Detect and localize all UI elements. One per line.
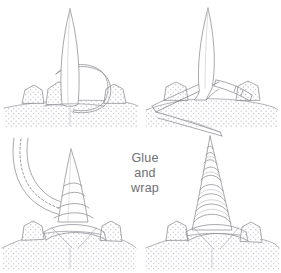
diagram-canvas: Glue and wrap bbox=[0, 0, 281, 273]
ground-stipple bbox=[146, 99, 278, 128]
glue-and-wrap-label: Glue and wrap bbox=[130, 151, 159, 195]
rock-left bbox=[22, 85, 44, 103]
annotation-line-1: Glue bbox=[131, 151, 158, 165]
rock-left bbox=[166, 221, 188, 240]
horn-blade bbox=[61, 9, 79, 106]
panel-2-top-right bbox=[146, 8, 278, 136]
rock-right bbox=[100, 221, 122, 241]
panel-4-bottom-right bbox=[146, 136, 279, 271]
curved-strip bbox=[13, 138, 68, 215]
rock-right bbox=[240, 222, 262, 242]
annotation-line-2: and bbox=[134, 166, 155, 180]
panel-1-top-left bbox=[4, 9, 138, 128]
rock-right bbox=[236, 81, 260, 100]
annotation-line-3: wrap bbox=[130, 181, 159, 195]
cone bbox=[58, 149, 88, 222]
rock-left bbox=[22, 221, 44, 240]
glue-and-wrap-figure: Glue and wrap bbox=[0, 0, 281, 273]
panel-3-bottom-left bbox=[2, 138, 136, 271]
cone bbox=[192, 136, 232, 230]
